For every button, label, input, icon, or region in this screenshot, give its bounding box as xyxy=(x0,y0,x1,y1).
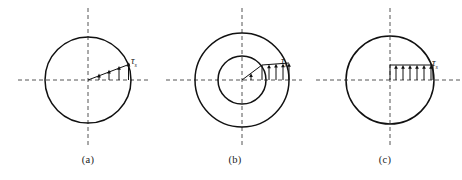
stress-arrow xyxy=(422,65,426,80)
stress-arrow xyxy=(401,65,405,80)
panel-caption-b: (b) xyxy=(215,154,255,165)
stress-arrow xyxy=(394,65,398,80)
panel-c-diagram xyxy=(300,0,462,180)
stress-arrow xyxy=(274,64,278,80)
stress-label-a: τs xyxy=(131,55,137,68)
stress-arrow-group xyxy=(394,65,433,80)
stress-subscript: s xyxy=(285,62,287,68)
stress-subscript: s xyxy=(436,64,438,70)
radius-line xyxy=(242,65,262,80)
panel-a-diagram xyxy=(0,0,150,180)
stress-label-b: τs xyxy=(281,55,287,68)
panel-caption-a: (a) xyxy=(68,154,108,165)
figure-container: τs τs τs (a) (b) (c) xyxy=(0,0,462,180)
panel-caption-c: (c) xyxy=(365,154,405,165)
stress-arrow xyxy=(267,64,271,80)
stress-arrow xyxy=(408,65,412,80)
stress-arrow xyxy=(97,74,101,80)
stress-arrow xyxy=(415,65,419,80)
panel-b-diagram xyxy=(150,0,302,180)
stress-subscript: s xyxy=(135,62,137,68)
stress-arrow-group xyxy=(97,63,130,80)
stress-label-c: τs xyxy=(432,57,438,70)
